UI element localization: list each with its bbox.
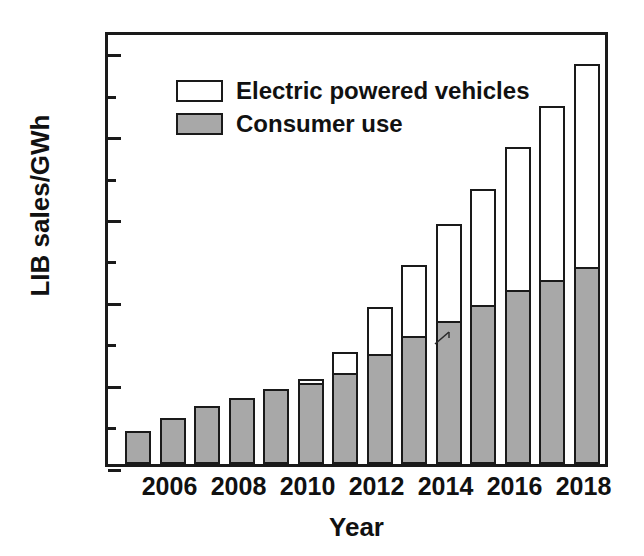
bar-2018 [574,64,600,464]
bar-2005 [125,431,151,464]
bar-segment-consumer-2006 [160,418,186,464]
bar-2011 [332,352,358,464]
legend-swatch-ev-icon [176,80,223,102]
bar-2013 [401,265,427,464]
legend-swatch-consumer-icon [176,113,223,135]
x-tick-label-2018: 2018 [539,472,629,501]
bar-segment-consumer-2018 [574,267,600,464]
bar-segment-consumer-2015 [470,305,496,465]
bar-segment-consumer-2013 [401,336,427,464]
bar-segment-consumer-2017 [539,280,565,464]
legend-item-ev: Electric powered vehicles [176,76,526,105]
bar-2017 [539,106,565,464]
bar-segment-consumer-2012 [367,354,393,464]
y-tick-major-0 [108,469,121,472]
bar-segment-consumer-2009 [263,389,289,464]
bar-2016 [505,147,531,464]
bar-2009 [263,389,289,464]
bar-2007 [194,406,220,464]
bar-segment-consumer-2008 [229,398,255,464]
y-axis-title: LIB sales/GWh [25,86,56,326]
bar-segment-consumer-2011 [332,373,358,464]
bar-2015 [470,189,496,465]
legend-label-consumer: Consumer use [236,110,403,138]
bar-2014 [436,224,462,464]
bar-segment-consumer-2007 [194,406,220,464]
bar-segment-consumer-2010 [298,383,324,464]
legend-item-consumer: Consumer use [176,109,526,138]
bar-segment-consumer-2016 [505,290,531,464]
bar-2012 [367,307,393,464]
bar-2010 [298,379,324,464]
legend-label-ev: Electric powered vehicles [236,77,529,105]
bar-2008 [229,398,255,464]
chart-legend: Electric powered vehicles Consumer use [176,76,526,142]
bar-2006 [160,418,186,464]
chart-figure: LIB sales/GWh Year 020406080100 20062008… [0,0,644,556]
bar-segment-consumer-2005 [125,431,151,464]
bar-segment-consumer-2014 [436,321,462,464]
x-axis-title: Year [105,512,608,543]
